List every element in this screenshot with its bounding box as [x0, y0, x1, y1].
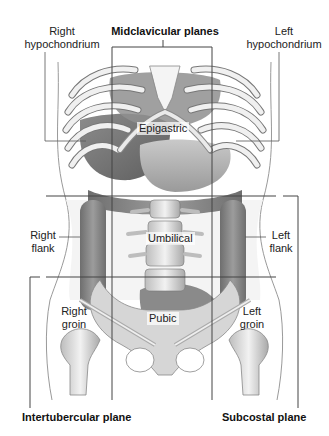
label-line-2: hypochondrium: [239, 38, 329, 51]
label-umbilical: Umbilical: [146, 232, 195, 245]
label-line-1: Right: [17, 25, 107, 38]
midclavicular-bracket: [112, 40, 212, 47]
label-line-1: Right: [58, 305, 90, 318]
label-midclavicular-planes: Midclavicular planes: [105, 25, 225, 38]
label-pubic: Pubic: [147, 312, 179, 325]
label-right-hypochondrium: Right hypochondrium: [17, 25, 107, 50]
label-line-2: groin: [236, 318, 268, 331]
anatomy-illustration: [0, 0, 329, 436]
label-line-1: Left: [265, 229, 297, 242]
label-right-flank: Right flank: [27, 229, 59, 254]
label-epigastric: Epigastric: [137, 122, 189, 135]
label-subcostal-plane: Subcostal plane: [222, 411, 306, 424]
label-line-1: Right: [27, 229, 59, 242]
label-intertubercular-plane: Intertubercular plane: [22, 411, 131, 424]
label-line-2: hypochondrium: [17, 38, 107, 51]
abdominal-regions-diagram: Right hypochondrium Midclavicular planes…: [0, 0, 329, 436]
subcostal-bracket: [283, 196, 298, 408]
label-line-2: flank: [27, 242, 59, 255]
label-line-2: flank: [265, 242, 297, 255]
label-line-1: Left: [239, 25, 329, 38]
label-line-1: Left: [236, 305, 268, 318]
label-left-groin: Left groin: [236, 305, 268, 330]
intertubercular-bracket: [30, 277, 40, 408]
label-right-groin: Right groin: [58, 305, 90, 330]
label-line-2: groin: [58, 318, 90, 331]
label-left-flank: Left flank: [265, 229, 297, 254]
label-left-hypochondrium: Left hypochondrium: [239, 25, 329, 50]
